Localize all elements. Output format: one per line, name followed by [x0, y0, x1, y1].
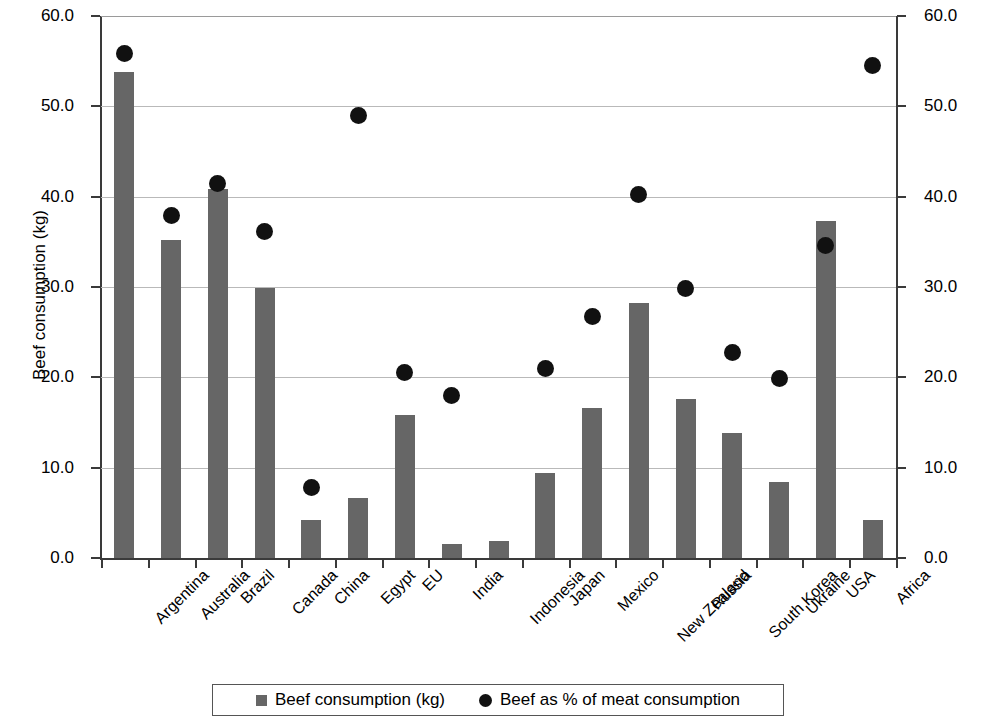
tick-mark-left: [91, 467, 100, 469]
bar-africa: [863, 520, 883, 558]
x-label-egypt: Egypt: [378, 567, 418, 607]
bar-usa: [816, 221, 836, 558]
bar-india: [442, 544, 462, 558]
tick-mark-right: [897, 196, 906, 198]
tick-mark-left: [91, 376, 100, 378]
x-label-africa: Africa: [893, 567, 933, 607]
tick-mark-right: [897, 376, 906, 378]
bar-new-zealand: [629, 303, 649, 558]
bar-mexico: [582, 408, 602, 558]
y-tick-label-left: 30.0: [41, 278, 74, 295]
bar-china: [301, 520, 321, 558]
x-tick-mark: [896, 559, 898, 568]
y-tick-label-right: 60.0: [924, 7, 957, 24]
tick-mark-right: [897, 557, 906, 559]
x-label-mexico: Mexico: [615, 567, 662, 614]
bar-indonesia: [489, 541, 509, 558]
tick-mark-left: [91, 15, 100, 17]
y-tick-label-left: 60.0: [41, 7, 74, 24]
y-tick-label-left: 50.0: [41, 97, 74, 114]
dot-japan: [537, 360, 554, 377]
y-tick-label-left: 20.0: [41, 368, 74, 385]
legend-square-icon: [256, 695, 267, 706]
dot-usa: [817, 237, 834, 254]
y-tick-label-left: 40.0: [41, 188, 74, 205]
legend-item-bar: Beef consumption (kg): [256, 690, 445, 710]
y-tick-label-right: 40.0: [924, 188, 957, 205]
bar-argentina: [114, 72, 134, 558]
tick-mark-left: [91, 557, 100, 559]
y-tick-label-right: 0.0: [924, 549, 948, 566]
dot-australia: [163, 207, 180, 224]
y-tick-label-right: 10.0: [924, 459, 957, 476]
legend-label-scatter: Beef as % of meat consumption: [500, 690, 740, 710]
chart-legend: Beef consumption (kg) Beef as % of meat …: [212, 684, 784, 716]
dot-eu: [396, 364, 413, 381]
y-tick-label-left: 10.0: [41, 459, 74, 476]
dot-russia: [677, 280, 694, 297]
dot-india: [443, 387, 460, 404]
tick-mark-right: [897, 286, 906, 288]
tick-mark-right: [897, 15, 906, 17]
bar-canada: [255, 288, 275, 558]
legend-item-scatter: Beef as % of meat consumption: [479, 690, 740, 710]
y-tick-label-right: 30.0: [924, 278, 957, 295]
y-tick-label-right: 20.0: [924, 368, 957, 385]
beef-consumption-chart: Beef consumption (kg) Percentage of meat…: [0, 0, 993, 721]
y-tick-label-left: 0.0: [50, 549, 74, 566]
dot-ukraine: [771, 370, 788, 387]
dot-china: [303, 479, 320, 496]
bar-eu: [395, 415, 415, 558]
y-tick-label-right: 50.0: [924, 97, 957, 114]
bar-egypt: [348, 498, 368, 558]
x-label-argentina: Argentina: [152, 567, 212, 627]
x-label-india: India: [470, 567, 506, 603]
bar-russia: [676, 399, 696, 558]
bar-japan: [535, 473, 555, 558]
gridline-top: [101, 16, 896, 17]
dot-egypt: [350, 107, 367, 124]
bar-south-korea: [722, 433, 742, 558]
dot-new-zealand: [630, 186, 647, 203]
tick-mark-right: [897, 467, 906, 469]
x-axis-category-labels: ArgentinaAustraliaBrazilCanadaChinaEgypt…: [101, 558, 896, 668]
dot-south-korea: [724, 344, 741, 361]
x-label-usa: USA: [844, 567, 879, 602]
dot-argentina: [116, 45, 133, 62]
legend-label-bar: Beef consumption (kg): [275, 690, 445, 710]
x-label-china: China: [331, 567, 372, 608]
bar-brazil: [208, 189, 228, 558]
tick-mark-left: [91, 105, 100, 107]
dot-mexico: [584, 308, 601, 325]
tick-mark-left: [91, 196, 100, 198]
legend-circle-icon: [479, 694, 492, 707]
tick-mark-left: [91, 286, 100, 288]
tick-mark-right: [897, 105, 906, 107]
dot-brazil: [209, 175, 226, 192]
dot-canada: [256, 223, 273, 240]
x-label-eu: EU: [420, 567, 447, 594]
bar-australia: [161, 240, 181, 558]
gridline: [101, 106, 896, 107]
plot-area: [101, 16, 896, 558]
bar-ukraine: [769, 482, 789, 558]
dot-africa: [864, 57, 881, 74]
